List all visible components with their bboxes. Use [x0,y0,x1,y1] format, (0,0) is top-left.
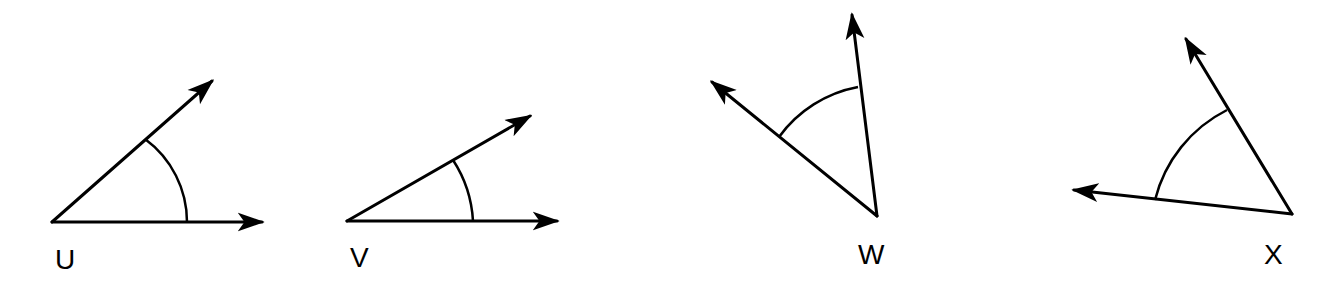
angle-x [1074,39,1292,214]
arrow-icon [1074,190,1292,214]
angle-arc [145,139,187,222]
angle-v [347,116,557,221]
arrow-icon [712,82,877,216]
angle-w [712,15,877,216]
arrow-icon [347,116,530,221]
angle-label-v: V [350,244,369,272]
angle-arc [453,160,473,221]
angle-label-x: X [1264,241,1283,269]
angles-diagram [0,0,1334,299]
angle-label-w: W [858,241,884,269]
angle-label-u: U [55,246,75,274]
arrow-icon [852,15,877,216]
angle-arc [779,87,858,137]
arrow-icon [52,81,212,222]
angle-u [52,81,262,222]
angle-arc [1155,110,1227,200]
